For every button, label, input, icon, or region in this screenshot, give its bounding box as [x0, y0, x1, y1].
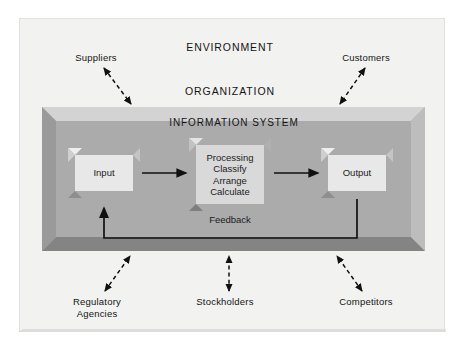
regulatory-agencies-label: Regulatory Agencies	[52, 296, 142, 319]
processing-box-content: Processing Classify Arrange Calculate	[196, 145, 264, 204]
competitors-label: Competitors	[320, 296, 412, 308]
processing-line-3: Arrange	[213, 175, 247, 187]
input-box: Input	[68, 148, 140, 198]
output-box: Output	[321, 148, 393, 198]
panel-shadow	[22, 329, 446, 332]
processing-line-4: Calculate	[210, 186, 250, 198]
processing-box-bevel-left	[189, 138, 196, 152]
stockholders-label: Stockholders	[175, 296, 275, 308]
input-box-bevel-right	[133, 148, 140, 162]
processing-box: Processing Classify Arrange Calculate	[189, 138, 271, 211]
input-box-bevel-bottom	[68, 191, 82, 198]
regulatory-agencies-line-1: Regulatory	[73, 296, 121, 307]
organization-label: ORGANIZATION	[0, 85, 460, 97]
regulatory-agencies-line-2: Agencies	[77, 308, 118, 319]
input-box-bevel-left	[68, 148, 75, 162]
feedback-label: Feedback	[189, 214, 271, 225]
output-box-bevel-left	[321, 148, 328, 162]
processing-line-2: Classify	[213, 163, 246, 175]
frame-bevel-right	[411, 107, 425, 251]
frame-bevel-left	[42, 107, 56, 251]
suppliers-label: Suppliers	[56, 52, 136, 63]
processing-box-bevel-right	[264, 138, 271, 152]
input-box-label: Input	[75, 155, 133, 191]
processing-line-1: Processing	[207, 152, 254, 164]
customers-label: Customers	[324, 52, 408, 63]
figure-canvas: ENVIRONMENT ORGANIZATION INFORMATION SYS…	[0, 0, 460, 343]
information-system-label: INFORMATION SYSTEM	[43, 117, 425, 128]
frame-bevel-bottom	[42, 237, 425, 251]
output-box-bevel-right	[386, 148, 393, 162]
output-box-bevel-bottom	[321, 191, 335, 198]
output-box-label: Output	[328, 155, 386, 191]
processing-box-bevel-bottom	[189, 204, 203, 211]
